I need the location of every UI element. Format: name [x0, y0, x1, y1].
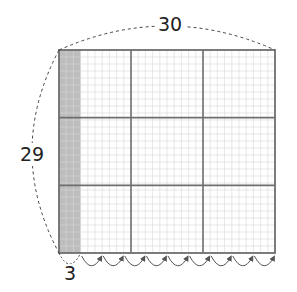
- left-height-label: 29: [20, 143, 44, 166]
- grid-diagram: [0, 0, 297, 292]
- jump-arrow-icon: [146, 256, 166, 266]
- top-width-label: 30: [155, 15, 185, 34]
- shaded-strip: [59, 50, 81, 253]
- jump-arrow-icon: [254, 256, 274, 266]
- jump-arrow-icon: [190, 256, 210, 266]
- jump-arrow-icon: [211, 256, 231, 266]
- jump-arrow-icon: [103, 256, 123, 266]
- jump-arrow-icon: [82, 256, 102, 266]
- jump-arrow-icon: [233, 256, 253, 266]
- jump-arrow-icon: [125, 256, 145, 266]
- shaded-width-label: 3: [64, 264, 76, 283]
- jump-arrow-icon: [168, 256, 188, 266]
